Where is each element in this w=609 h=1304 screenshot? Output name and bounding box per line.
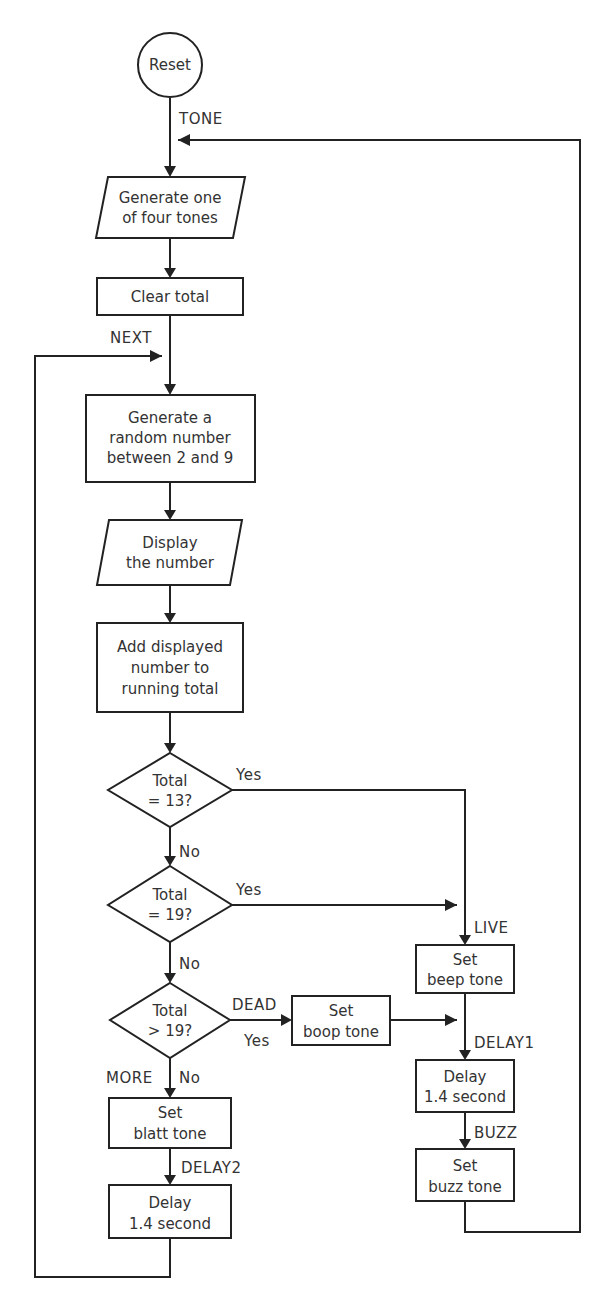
label-no-19: No: [179, 955, 200, 973]
node-text: running total: [122, 680, 219, 698]
node-text: between 2 and 9: [107, 449, 233, 467]
label-more: MORE: [106, 1069, 153, 1087]
label-no-13: No: [179, 843, 200, 861]
flowchart-canvas: Reset Generate one of four tones Clear t…: [0, 0, 609, 1304]
node-text: 1.4 second: [424, 1088, 506, 1106]
label-dead: DEAD: [232, 996, 277, 1014]
add-total-node: Add displayed number to running total: [97, 623, 243, 712]
node-text: Generate a: [128, 409, 212, 427]
delay2-node: Delay 1.4 second: [109, 1185, 231, 1238]
node-text: Set: [329, 1002, 354, 1020]
set-blatt-node: Set blatt tone: [109, 1098, 231, 1148]
node-text: the number: [126, 554, 215, 572]
node-text: Add displayed: [117, 638, 223, 656]
node-text: Set: [453, 1157, 478, 1175]
node-text: Set: [158, 1104, 183, 1122]
reset-start-node: Reset: [138, 33, 202, 97]
generate-tone-node: Generate one of four tones: [96, 177, 245, 238]
decision-total-19: Total = 19?: [108, 866, 232, 942]
label-delay2: DELAY2: [181, 1159, 242, 1177]
node-text: Delay: [443, 1068, 486, 1086]
label-next: NEXT: [110, 329, 152, 347]
set-beep-node: Set beep tone: [416, 945, 514, 993]
decision-total-gt-19: Total > 19?: [110, 983, 230, 1058]
label-buzz: BUZZ: [474, 1124, 518, 1142]
set-boop-node: Set boop tone: [292, 996, 390, 1045]
node-text: buzz tone: [428, 1178, 501, 1196]
node-text: random number: [109, 429, 231, 447]
node-text: Generate one: [119, 189, 222, 207]
node-text: 1.4 second: [129, 1215, 211, 1233]
node-text: Delay: [148, 1194, 191, 1212]
clear-total-node: Clear total: [97, 278, 243, 315]
label-yes-19: Yes: [235, 881, 262, 899]
node-text: beep tone: [427, 971, 503, 989]
label-yes-13: Yes: [235, 766, 262, 784]
label-no-gt19: No: [179, 1069, 200, 1087]
label-live: LIVE: [474, 919, 509, 937]
node-text: = 13?: [148, 792, 192, 810]
node-text: = 19?: [148, 906, 192, 924]
node-text: > 19?: [148, 1022, 192, 1040]
node-text: Total: [151, 772, 187, 790]
node-text: Clear total: [131, 288, 209, 306]
delay1-node: Delay 1.4 second: [416, 1060, 514, 1112]
node-text: Total: [151, 1002, 187, 1020]
generate-random-node: Generate a random number between 2 and 9: [86, 395, 255, 482]
decision-total-13: Total = 13?: [108, 753, 232, 827]
node-text: Set: [453, 951, 478, 969]
node-text: Display: [142, 534, 197, 552]
node-text: boop tone: [303, 1023, 379, 1041]
display-number-node: Display the number: [97, 520, 242, 585]
reset-label: Reset: [149, 56, 191, 74]
label-yes-gt19: Yes: [243, 1032, 270, 1050]
node-text: Total: [151, 886, 187, 904]
node-text: of four tones: [122, 209, 218, 227]
node-text: blatt tone: [133, 1125, 206, 1143]
node-text: number to: [131, 659, 209, 677]
label-delay1: DELAY1: [474, 1034, 535, 1052]
set-buzz-node: Set buzz tone: [416, 1149, 514, 1201]
label-tone: TONE: [178, 110, 223, 128]
